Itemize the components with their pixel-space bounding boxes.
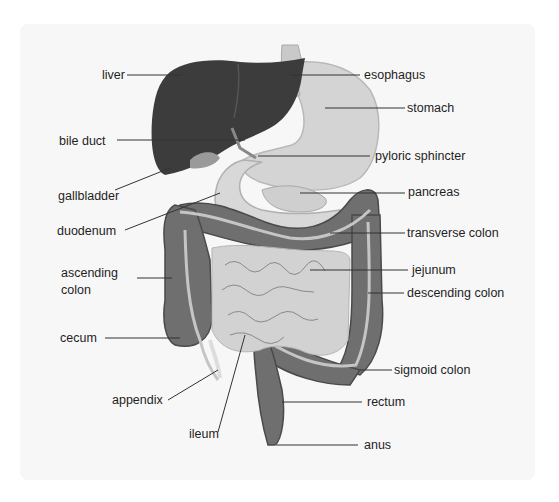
label-jejunum: jejunum xyxy=(412,262,456,278)
label-gallbladder: gallbladder xyxy=(58,188,119,204)
label-stomach: stomach xyxy=(407,100,454,116)
label-ileum: ileum xyxy=(189,426,219,442)
label-sigmoid-colon: sigmoid colon xyxy=(394,362,470,378)
label-liver: liver xyxy=(102,67,125,83)
label-cecum: cecum xyxy=(60,330,97,346)
label-duodenum: duodenum xyxy=(57,223,116,239)
label-pyloric-sphincter: pyloric sphincter xyxy=(375,148,465,164)
digestive-system-illustration xyxy=(0,0,559,502)
label-transverse-colon: transverse colon xyxy=(407,225,499,241)
label-rectum: rectum xyxy=(367,394,405,410)
label-esophagus: esophagus xyxy=(364,67,425,83)
label-ascending-colon-line2: colon xyxy=(61,282,91,298)
small-intestine-shape xyxy=(212,245,350,355)
label-ascending-colon-line1: ascending xyxy=(61,265,118,281)
label-bile-duct: bile duct xyxy=(59,133,106,149)
label-anus: anus xyxy=(364,437,391,453)
label-appendix: appendix xyxy=(112,392,163,408)
label-descending-colon: descending colon xyxy=(407,285,504,301)
label-pancreas: pancreas xyxy=(408,184,459,200)
